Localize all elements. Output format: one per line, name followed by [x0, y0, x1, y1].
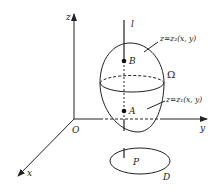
point-b — [122, 59, 127, 64]
lower-surface-leader — [147, 101, 165, 109]
region-omega-label: Ω — [167, 69, 175, 80]
point-b-label: B — [128, 56, 136, 66]
diagram-canvas: z y x O l B A P D Ω z=z₂(x, y) z=z₁(x, y… — [0, 0, 219, 192]
x-axis-label: x — [27, 168, 32, 178]
upper-surface-label: z=z₂(x, y) — [159, 34, 196, 43]
point-a-label: A — [128, 106, 136, 116]
region-d-label: D — [162, 172, 170, 182]
line-l-label: l — [131, 19, 134, 29]
lower-surface-label: z=z₁(x, y) — [165, 95, 202, 104]
point-p-label: P — [132, 157, 140, 167]
y-axis-label: y — [199, 123, 206, 133]
origin-label: O — [72, 125, 80, 135]
point-a — [122, 109, 127, 114]
region-d-ellipse — [110, 148, 170, 174]
z-axis-label: z — [65, 12, 71, 22]
